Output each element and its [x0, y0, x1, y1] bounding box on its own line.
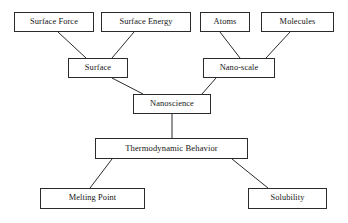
node-label-surface_energy: Surface Energy	[119, 18, 172, 26]
diagram-canvas: Surface ForceSurface EnergyAtomsMolecule…	[0, 0, 348, 223]
connector-thermodynamic-to-melting_point	[90, 159, 112, 188]
node-label-atoms: Atoms	[214, 18, 237, 26]
node-box-nanoscience[interactable]: Nanoscience	[133, 94, 211, 114]
node-box-surface_energy[interactable]: Surface Energy	[101, 12, 191, 32]
connector-atoms-to-nano_scale	[220, 32, 240, 58]
node-label-nanoscience: Nanoscience	[150, 100, 194, 108]
connector-thermodynamic-to-solubility	[232, 159, 268, 188]
connector-molecules-to-nano_scale	[266, 32, 290, 58]
connector-surface_force-to-surface	[58, 32, 86, 58]
node-label-melting_point: Melting Point	[69, 194, 117, 202]
node-label-thermodynamic: Thermodynamic Behavior	[125, 144, 218, 153]
node-box-thermodynamic[interactable]: Thermodynamic Behavior	[95, 138, 248, 159]
node-box-molecules[interactable]: Molecules	[261, 12, 334, 32]
node-box-solubility[interactable]: Solubility	[248, 188, 327, 209]
node-box-melting_point[interactable]: Melting Point	[40, 188, 145, 209]
node-label-surface: Surface	[85, 64, 111, 72]
node-box-nano_scale[interactable]: Nano-scale	[203, 58, 275, 78]
connector-surface_energy-to-surface	[112, 32, 134, 58]
node-box-surface_force[interactable]: Surface Force	[14, 12, 94, 32]
node-box-surface[interactable]: Surface	[68, 58, 128, 78]
node-box-atoms[interactable]: Atoms	[200, 12, 250, 32]
node-label-surface_force: Surface Force	[30, 18, 78, 26]
node-label-nano_scale: Nano-scale	[220, 64, 259, 72]
node-label-molecules: Molecules	[280, 18, 316, 26]
connector-nano_scale-to-nanoscience	[202, 78, 216, 94]
connector-surface-to-nanoscience	[112, 78, 143, 94]
node-label-solubility: Solubility	[270, 194, 304, 202]
